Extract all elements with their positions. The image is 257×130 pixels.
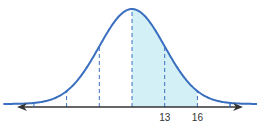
tick-label-16: 16 (192, 112, 204, 123)
tick-labels: 13 16 (159, 112, 203, 123)
normal-curve (3, 9, 257, 104)
tick-label-13: 13 (159, 112, 171, 123)
normal-distribution-chart: 13 16 (0, 0, 257, 130)
